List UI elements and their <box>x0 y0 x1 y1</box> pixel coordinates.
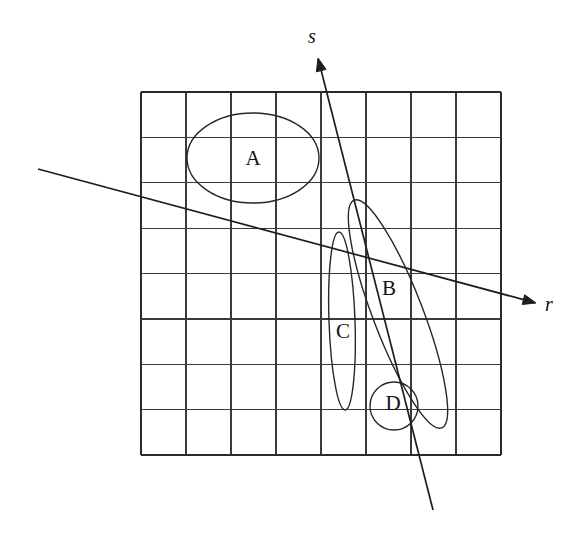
axis-group: sr <box>38 25 553 510</box>
axis-line-r <box>38 169 526 300</box>
axis-label-s: s <box>308 25 316 47</box>
axis-arrowhead-r <box>522 295 536 305</box>
axis-line-s <box>320 68 433 510</box>
region-group: ABCD <box>187 113 465 437</box>
region-label-A: A <box>245 146 261 170</box>
region-label-C: C <box>336 319 350 343</box>
region-label-D: D <box>385 391 400 415</box>
axis-label-r: r <box>545 293 553 315</box>
figure-root: ABCD sr <box>0 0 588 538</box>
diagram-canvas: ABCD sr <box>0 0 588 538</box>
region-label-B: B <box>382 276 396 300</box>
axis-arrowhead-s <box>316 58 326 72</box>
